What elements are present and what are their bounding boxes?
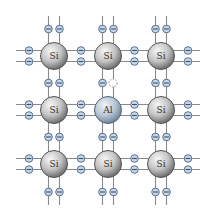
electron-icon [56, 79, 64, 87]
atoms: SiSiSiSiAlSiSiSiSi [41, 43, 175, 178]
electron-icon [110, 133, 118, 141]
electron-icon [110, 188, 118, 196]
electron-icon [77, 58, 85, 66]
electron-icon [77, 47, 85, 55]
electron-icon [45, 79, 53, 87]
atom-label: Si [49, 159, 58, 169]
electron-icon [152, 133, 160, 141]
electron-icon [77, 166, 85, 174]
electron-icon [131, 47, 139, 55]
atom-label: Si [49, 51, 58, 61]
electron-icon [184, 155, 192, 163]
silicon-atom: Si [41, 151, 68, 178]
electron-icon [131, 166, 139, 174]
atom-label: Si [156, 51, 165, 61]
electron-icon [110, 25, 118, 33]
silicon-atom: Si [95, 151, 122, 178]
electron-icon [99, 79, 107, 87]
electron-icon [25, 47, 33, 55]
electron-icon [56, 25, 64, 33]
electron-icon [77, 155, 85, 163]
electron-icon [99, 25, 107, 33]
electron-icon [25, 166, 33, 174]
electron-icon [163, 133, 171, 141]
electron-icon [152, 188, 160, 196]
atom-label: Si [49, 105, 58, 115]
electron-icon [45, 188, 53, 196]
electron-icon [163, 25, 171, 33]
electron-icon [184, 47, 192, 55]
electron-icon [152, 79, 160, 87]
hole-icon [109, 79, 117, 87]
electron-icon [99, 188, 107, 196]
silicon-atom: Si [41, 43, 68, 70]
electron-icon [25, 101, 33, 109]
electron-icon [131, 112, 139, 120]
silicon-atom: Si [41, 97, 68, 124]
silicon-atom: Si [95, 43, 122, 70]
electron-icon [163, 79, 171, 87]
silicon-lattice-diagram: SiSiSiSiAlSiSiSiSi [0, 0, 216, 218]
atom-label: Si [103, 51, 112, 61]
silicon-atom: Si [148, 43, 175, 70]
electron-icon [77, 112, 85, 120]
electron-icon [25, 112, 33, 120]
silicon-atom: Si [148, 151, 175, 178]
atom-label: Al [102, 105, 112, 115]
electron-icon [131, 155, 139, 163]
hole-layer [109, 79, 117, 87]
electron-icon [152, 25, 160, 33]
electron-icon [56, 188, 64, 196]
silicon-atom: Si [148, 97, 175, 124]
electron-icon [77, 101, 85, 109]
atom-label: Si [156, 159, 165, 169]
electron-icon [45, 133, 53, 141]
electron-icon [184, 166, 192, 174]
electron-icon [163, 188, 171, 196]
electron-icon [56, 133, 64, 141]
electron-icon [25, 155, 33, 163]
atom-label: Si [103, 159, 112, 169]
electron-icon [184, 58, 192, 66]
aluminum-atom: Al [95, 97, 122, 124]
electron-icon [25, 58, 33, 66]
electron-icon [131, 58, 139, 66]
electron-icon [184, 101, 192, 109]
electron-icon [45, 25, 53, 33]
electron-icon [131, 101, 139, 109]
electron-icon [184, 112, 192, 120]
atom-label: Si [156, 105, 165, 115]
electron-icon [99, 133, 107, 141]
